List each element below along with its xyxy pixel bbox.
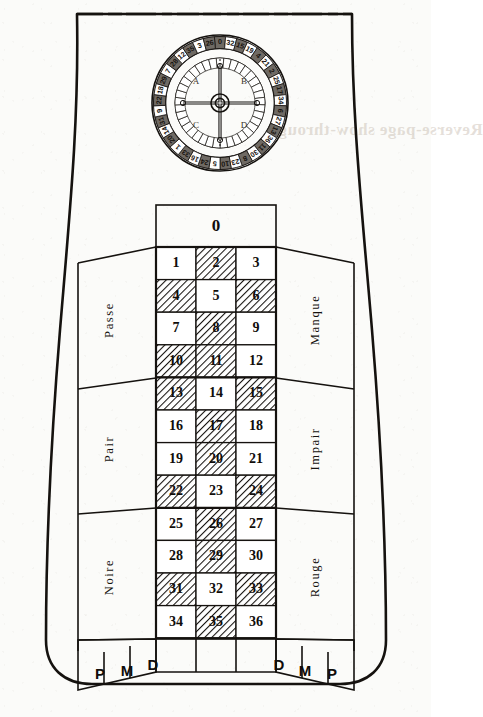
bet-cell-6[interactable]: 6 [236, 280, 276, 313]
bet-cell-29[interactable]: 29 [196, 540, 236, 573]
number-grid: 1234567891011121314151617181920212223242… [156, 247, 276, 638]
bet-cell-9[interactable]: 9 [236, 312, 276, 345]
bet-cell-32[interactable]: 32 [196, 573, 236, 606]
dozens-letter-right-m[interactable]: M [299, 662, 312, 679]
bet-cell-17[interactable]: 17 [196, 410, 236, 443]
bet-cell-5-label: 5 [213, 288, 220, 303]
wheel-number-34: 34 [276, 96, 285, 104]
bet-passe-label[interactable]: Passe [102, 302, 116, 338]
bet-cell-1[interactable]: 1 [156, 247, 196, 280]
bet-cell-36-label: 36 [249, 614, 263, 629]
bet-cell-15[interactable]: 15 [236, 377, 276, 410]
bet-cell-2[interactable]: 2 [196, 247, 236, 280]
bet-cell-22[interactable]: 22 [156, 475, 196, 508]
bet-cell-33-label: 33 [249, 581, 263, 596]
bet-cell-24[interactable]: 24 [236, 475, 276, 508]
bet-cell-0[interactable]: 0 [156, 205, 276, 247]
bet-manque-label[interactable]: Manque [308, 295, 322, 346]
bet-cell-27[interactable]: 27 [236, 508, 276, 541]
bet-cell-36[interactable]: 36 [236, 606, 276, 639]
bet-cell-18[interactable]: 18 [236, 410, 276, 443]
bet-cell-16[interactable]: 16 [156, 410, 196, 443]
bet-cell-6-label: 6 [253, 288, 260, 303]
bet-cell-10[interactable]: 10 [156, 345, 196, 378]
bet-cell-31[interactable]: 31 [156, 573, 196, 606]
bet-cell-4[interactable]: 4 [156, 280, 196, 313]
bet-cell-21-label: 21 [249, 451, 263, 466]
bet-cell-20-label: 20 [209, 451, 223, 466]
bet-cell-25-label: 25 [169, 516, 183, 531]
bet-cell-26[interactable]: 26 [196, 508, 236, 541]
wheel-quadrant-a: A [193, 76, 200, 86]
right-divider-1 [276, 378, 354, 389]
bet-cell-14-label: 14 [209, 385, 223, 400]
wheel-quadrant-b: B [241, 76, 247, 86]
bet-cell-24-label: 24 [249, 483, 263, 498]
bet-cell-30[interactable]: 30 [236, 540, 276, 573]
bet-cell-23-label: 23 [209, 483, 223, 498]
bet-cell-11-label: 11 [209, 353, 222, 368]
bet-cell-0-label: 0 [212, 216, 221, 235]
bet-cell-8[interactable]: 8 [196, 312, 236, 345]
dozens-right-wing [276, 639, 354, 690]
wheel-quadrant-c: C [193, 120, 199, 130]
right-divider-2 [276, 508, 354, 514]
dozens-letter-right-p[interactable]: P [327, 665, 337, 682]
bet-cell-32-label: 32 [209, 581, 223, 596]
bet-cell-28[interactable]: 28 [156, 540, 196, 573]
dozens-letter-left-p[interactable]: P [95, 665, 105, 682]
wheel-number-26: 26 [205, 38, 214, 48]
bet-cell-20[interactable]: 20 [196, 443, 236, 476]
bet-cell-7[interactable]: 7 [156, 312, 196, 345]
dozens-row: P M D D M P [78, 639, 354, 690]
bet-cell-13[interactable]: 13 [156, 377, 196, 410]
bet-cell-35[interactable]: 35 [196, 606, 236, 639]
left-divider-2 [78, 508, 156, 514]
wheel-number-22: 22 [154, 96, 163, 104]
bet-cell-21[interactable]: 21 [236, 443, 276, 476]
left-divider-1 [78, 378, 156, 389]
bet-cell-33[interactable]: 33 [236, 573, 276, 606]
bet-pair-label[interactable]: Pair [102, 436, 116, 463]
roulette-wheel[interactable]: 0321519421225173462713361130823105241633… [152, 35, 288, 171]
bet-cell-19-label: 19 [169, 451, 183, 466]
dozens-letter-left-m[interactable]: M [121, 662, 134, 679]
bet-cell-5[interactable]: 5 [196, 280, 236, 313]
dozens-left-wing [78, 639, 156, 690]
bet-cell-29-label: 29 [209, 548, 223, 563]
bet-cell-34[interactable]: 34 [156, 606, 196, 639]
bet-cell-8-label: 8 [213, 320, 220, 335]
bet-cell-28-label: 28 [169, 548, 183, 563]
wheel-number-0: 0 [218, 37, 222, 46]
bet-cell-7-label: 7 [173, 320, 180, 335]
bet-cell-19[interactable]: 19 [156, 443, 196, 476]
wheel-number-5: 5 [212, 159, 217, 168]
bet-cell-9-label: 9 [253, 320, 260, 335]
bet-cell-2-label: 2 [213, 255, 220, 270]
bet-cell-23[interactable]: 23 [196, 475, 236, 508]
bet-cell-11[interactable]: 11 [196, 345, 236, 378]
bet-rouge-label[interactable]: Rouge [308, 557, 322, 598]
bet-cell-14[interactable]: 14 [196, 377, 236, 410]
bet-cell-22-label: 22 [169, 483, 183, 498]
bet-cell-3[interactable]: 3 [236, 247, 276, 280]
bet-cell-27-label: 27 [249, 516, 263, 531]
bet-impair-label[interactable]: Impair [308, 428, 322, 471]
bet-cell-12[interactable]: 12 [236, 345, 276, 378]
bet-cell-26-label: 26 [209, 516, 223, 531]
bet-cell-18-label: 18 [249, 418, 263, 433]
right-divider-top [276, 247, 354, 263]
dozens-letter-left-d[interactable]: D [148, 656, 159, 673]
bet-cell-13-label: 13 [169, 385, 183, 400]
bet-cell-15-label: 15 [249, 385, 263, 400]
bet-cell-35-label: 35 [209, 614, 223, 629]
dozens-letter-right-d[interactable]: D [274, 656, 285, 673]
wheel-number-32: 32 [226, 38, 235, 48]
bet-cell-25[interactable]: 25 [156, 508, 196, 541]
bet-cell-3-label: 3 [253, 255, 260, 270]
bet-cell-10-label: 10 [169, 353, 183, 368]
bet-cell-31-label: 31 [169, 581, 183, 596]
bet-noire-label[interactable]: Noire [102, 559, 116, 595]
bet-cell-4-label: 4 [173, 288, 180, 303]
